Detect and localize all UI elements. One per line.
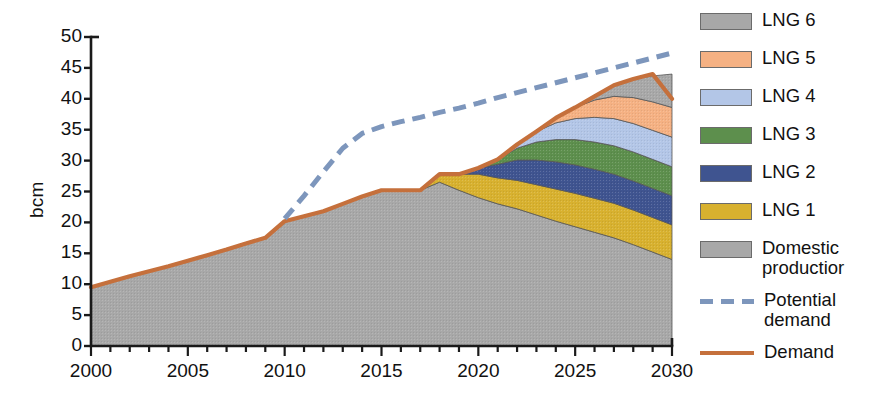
legend-swatch-icon — [700, 51, 752, 68]
legend-label: LNG 5 — [762, 46, 815, 68]
y-tick-label: 30 — [38, 149, 82, 171]
y-tick-label: 25 — [38, 180, 82, 202]
x-tick-label: 2000 — [56, 360, 126, 382]
legend-swatch-icon — [700, 165, 752, 182]
legend-label: LNG 2 — [762, 160, 815, 182]
y-tick-label: 5 — [38, 303, 82, 325]
y-tick-label: 20 — [38, 210, 82, 232]
legend-dashed-line-icon — [700, 293, 754, 310]
chart-legend: LNG 6LNG 5LNG 4LNG 3LNG 2LNG 1Domestic p… — [700, 8, 874, 378]
legend-item[interactable]: LNG 6 — [700, 8, 874, 46]
legend-swatch-icon — [700, 203, 752, 220]
legend-swatch-icon — [700, 241, 752, 258]
y-tick-label: 0 — [38, 334, 82, 356]
y-tick-label: 40 — [38, 87, 82, 109]
legend-swatch-icon — [700, 13, 752, 30]
legend-item[interactable]: LNG 2 — [700, 160, 874, 198]
legend-label: Domestic productior — [762, 236, 844, 278]
y-tick-label: 50 — [38, 25, 82, 47]
x-tick-label: 2010 — [250, 360, 320, 382]
legend-label: Demand — [764, 340, 834, 362]
x-tick-label: 2015 — [347, 360, 417, 382]
legend-solid-line-icon — [700, 345, 754, 362]
y-tick-label: 15 — [38, 241, 82, 263]
x-tick-label: 2020 — [443, 360, 513, 382]
y-tick-label: 10 — [38, 272, 82, 294]
legend-item[interactable]: Domestic productior — [700, 236, 874, 288]
plot-area: bcm 50454035302520151050 200020052010201… — [0, 0, 690, 405]
legend-item[interactable]: Potential demand — [700, 288, 874, 340]
chart-canvas — [0, 0, 690, 405]
legend-label: Potential demand — [764, 288, 836, 330]
x-tick-label: 2025 — [540, 360, 610, 382]
legend-label: LNG 1 — [762, 198, 815, 220]
x-tick-label: 2005 — [153, 360, 223, 382]
legend-label: LNG 6 — [762, 8, 815, 30]
legend-swatch-icon — [700, 89, 752, 106]
legend-item[interactable]: LNG 5 — [700, 46, 874, 84]
legend-swatch-icon — [700, 127, 752, 144]
legend-label: LNG 4 — [762, 84, 815, 106]
legend-item[interactable]: Demand — [700, 340, 874, 378]
legend-label: LNG 3 — [762, 122, 815, 144]
chart-figure: bcm 50454035302520151050 200020052010201… — [0, 0, 874, 405]
legend-item[interactable]: LNG 3 — [700, 122, 874, 160]
y-tick-label: 45 — [38, 56, 82, 78]
legend-item[interactable]: LNG 4 — [700, 84, 874, 122]
y-tick-label: 35 — [38, 118, 82, 140]
x-tick-label: 2030 — [637, 360, 707, 382]
legend-item[interactable]: LNG 1 — [700, 198, 874, 236]
